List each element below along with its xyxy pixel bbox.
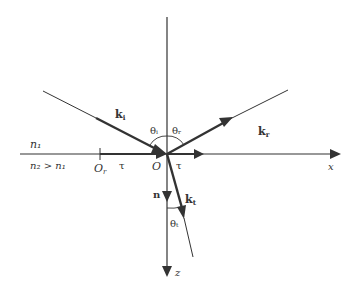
normal-arrowhead-icon (162, 191, 172, 202)
medium-upper-label: n₁ (30, 138, 42, 151)
x-axis-label: x (328, 161, 334, 172)
transmitted-arrowhead-icon (177, 205, 186, 219)
transmitted-vector-label: kt (185, 193, 197, 207)
x-axis-arrowhead-icon (330, 149, 341, 159)
z-axis-arrowhead-icon (162, 266, 172, 277)
reflected-ray-thin (230, 90, 288, 119)
transmitted-ray-thin (184, 218, 193, 257)
ref-point-label: Or (94, 162, 107, 176)
incidence-angle-label: θᵢ (150, 125, 158, 136)
origin-label: O (152, 160, 161, 173)
reflection-angle-arc (167, 136, 184, 145)
optics-diagram: n₁ n₂ > n₁ ki kr kt n θᵢ θᵣ θₜ O Or τ τ … (0, 0, 352, 292)
tangent-right-label: τ (176, 160, 182, 171)
tangent-left-label: τ (119, 160, 125, 171)
reflection-angle-label: θᵣ (172, 125, 182, 136)
z-axis-label: z (174, 267, 181, 278)
normal-vector-label: n (153, 189, 161, 200)
incident-arrowhead-icon (151, 144, 167, 154)
tangent-right-arrowhead-icon (194, 149, 204, 159)
medium-lower-label: n₂ > n₁ (30, 160, 66, 171)
incident-vector-label: ki (115, 108, 126, 122)
transmission-angle-label: θₜ (170, 218, 179, 229)
z-axis (162, 17, 172, 277)
incidence-angle-arc (150, 136, 167, 145)
incident-ray-thin (43, 91, 96, 118)
reflected-vector-label: kr (258, 125, 270, 139)
